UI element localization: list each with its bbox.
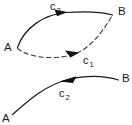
label-curve-c1: c 1	[83, 54, 94, 69]
curve-diagram-figure: A B c 2 c 1 A B c 2	[0, 0, 132, 125]
label-curve-c1-base: c	[83, 54, 89, 66]
label-curve-c2-top-sub: 2	[57, 6, 61, 15]
label-curve-c2-bottom-sub: 2	[66, 93, 70, 102]
label-curve-c2-bottom-base: c	[59, 87, 65, 99]
label-point-a-bottom: A	[2, 112, 10, 124]
label-curve-c2-top-base: c	[50, 0, 56, 12]
label-point-b-bottom: B	[122, 72, 130, 84]
diagram-labels-layer: A B c 2 c 1 A B c 2	[0, 0, 132, 125]
label-curve-c2-top: c 2	[50, 0, 61, 15]
label-curve-c1-sub: 1	[90, 60, 94, 69]
label-curve-c2-bottom: c 2	[59, 87, 70, 102]
label-point-b-top: B	[118, 5, 126, 17]
label-point-a-top: A	[4, 41, 12, 53]
